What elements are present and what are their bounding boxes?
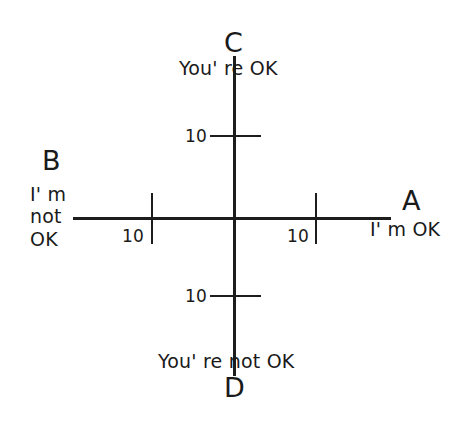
- tick-mark-top: [210, 135, 261, 137]
- quadrant-label-b: B: [42, 145, 61, 177]
- vertical-axis-line: [233, 56, 236, 376]
- axis-text-left-line2: not: [30, 205, 62, 227]
- axis-text-left-line1: I' m: [30, 183, 66, 205]
- axis-text-left: I' mnotOK: [30, 183, 66, 250]
- tick-mark-right: [315, 193, 317, 244]
- scale-value-bottom: 10: [185, 286, 207, 306]
- quadrant-label-a: A: [402, 185, 421, 217]
- scale-value-right: 10: [287, 226, 309, 246]
- scale-value-left: 10: [122, 226, 144, 246]
- axis-text-left-line3: OK: [30, 228, 58, 250]
- axis-text-top: You' re OK: [179, 57, 278, 79]
- axis-text-right: I' m OK: [370, 218, 440, 240]
- scale-value-top: 10: [185, 126, 207, 146]
- quadrant-label-d: D: [224, 372, 245, 404]
- quadrant-label-c: C: [224, 27, 243, 59]
- axis-text-bottom: You' re not OK: [158, 350, 295, 372]
- tick-mark-bottom: [210, 295, 261, 297]
- horizontal-axis-line: [73, 217, 391, 220]
- diagram-canvas: C You' re OK B I' mnotOK A I' m OK You' …: [0, 0, 466, 431]
- tick-mark-left: [151, 193, 153, 244]
